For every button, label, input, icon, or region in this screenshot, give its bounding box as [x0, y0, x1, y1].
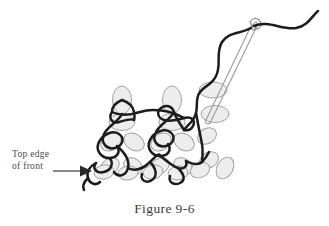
- label-line-1: Top edge: [12, 148, 78, 160]
- top-edge-of-front-label: Top edge of front: [12, 148, 78, 172]
- knitting-diagram-illustration: [0, 0, 329, 226]
- figure-container: Top edge of front Figure 9-6: [0, 0, 329, 226]
- figure-caption: Figure 9-6: [0, 201, 329, 217]
- label-line-2: of front: [12, 160, 78, 172]
